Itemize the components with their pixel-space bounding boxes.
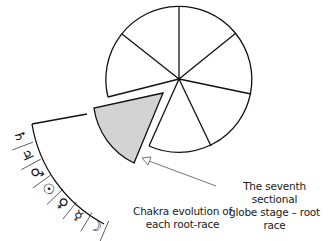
venus-icon: ♀ <box>54 194 72 213</box>
pointer-arrow <box>142 157 216 186</box>
seventh-label-line1: The seventh sectional <box>219 180 330 206</box>
chakra-symbols: ♄♃♂☉♀☿☽ <box>11 128 105 236</box>
chakra-label-line1: Chakra evolution of <box>133 205 232 218</box>
seventh-label-line2: globe stage – root race <box>219 206 330 232</box>
chakra-label-line2: each root-race <box>133 218 232 231</box>
mars-icon: ♂ <box>27 163 47 182</box>
chakra-evolution-label: Chakra evolution of each root-race <box>133 205 232 231</box>
sector-line-right <box>179 79 251 94</box>
globe-center-dot <box>177 77 180 80</box>
sector-line-lower-right <box>179 79 211 146</box>
chakra-arc-radial <box>32 114 87 124</box>
saturn-icon: ♄ <box>11 128 30 145</box>
seventh-stage-label: The seventh sectional globe stage – root… <box>219 180 330 232</box>
sector-line-upper-right <box>179 33 236 79</box>
jupiter-icon: ♃ <box>18 146 38 164</box>
sector-line-left <box>108 79 179 97</box>
mercury-icon: ☿ <box>70 207 86 225</box>
moon-icon: ☽ <box>86 216 104 236</box>
seventh-sector-wedge <box>94 93 163 163</box>
arrowhead-icon <box>142 157 151 165</box>
sector-line-upper-left <box>122 34 179 79</box>
